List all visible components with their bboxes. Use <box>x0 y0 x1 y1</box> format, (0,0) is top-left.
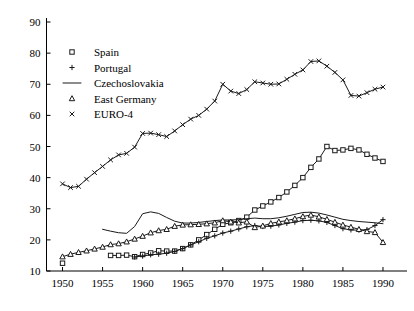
data-point-triangle <box>68 251 73 256</box>
data-point-triangle <box>324 217 329 222</box>
data-point-triangle <box>292 216 297 221</box>
data-point-triangle <box>84 248 89 253</box>
x-tick-label: 1970 <box>212 277 235 289</box>
series-portugal <box>132 217 386 260</box>
data-point-triangle <box>372 230 377 235</box>
data-point-triangle <box>316 214 321 219</box>
legend-swatch-triangle <box>69 96 74 101</box>
data-point-cross <box>204 107 209 112</box>
data-point-triangle <box>116 241 121 246</box>
series-path <box>111 147 383 257</box>
data-point-triangle <box>60 254 65 259</box>
legend-item-spain[interactable]: Spain <box>70 46 120 58</box>
data-point-triangle <box>284 218 289 223</box>
y-axis: 102030405060708090 <box>30 16 51 277</box>
data-point-plus <box>244 224 249 229</box>
data-point-square <box>285 190 289 194</box>
data-point-plus <box>220 230 225 235</box>
data-point-triangle <box>276 219 281 224</box>
data-point-triangle <box>164 226 169 231</box>
data-point-square <box>317 157 321 161</box>
data-point-triangle <box>300 214 305 219</box>
legend-swatch-plus <box>69 65 74 70</box>
data-point-square <box>373 156 377 160</box>
data-point-plus <box>212 233 217 238</box>
data-point-triangle <box>172 223 177 228</box>
data-point-cross <box>333 70 338 75</box>
legend-label: Spain <box>94 46 120 58</box>
line-chart: 102030405060708090 195019551960196519701… <box>0 0 414 311</box>
legend-label: East Germany <box>94 93 157 105</box>
data-point-triangle <box>148 230 153 235</box>
chart-legend: SpainPortugalCzechoslovakiaEast GermanyE… <box>63 46 164 120</box>
x-tick-label: 1960 <box>132 277 155 289</box>
y-tick-label: 40 <box>30 172 42 184</box>
legend-label: Czechoslovakia <box>94 77 164 89</box>
data-point-square <box>293 183 297 187</box>
data-point-square <box>116 253 120 257</box>
data-point-cross <box>285 77 290 82</box>
y-tick-label: 90 <box>30 16 42 28</box>
y-tick-label: 10 <box>30 265 42 277</box>
data-point-cross <box>212 99 217 104</box>
data-point-cross <box>196 113 201 118</box>
legend-swatch-square <box>70 50 74 54</box>
data-point-triangle <box>124 239 129 244</box>
data-point-cross <box>172 129 177 134</box>
data-point-triangle <box>260 223 265 228</box>
x-tick-label: 1965 <box>172 277 195 289</box>
data-point-cross <box>60 182 65 187</box>
x-tick-label: 1950 <box>52 277 75 289</box>
legend-item-czechoslovakia[interactable]: Czechoslovakia <box>63 77 164 89</box>
data-point-square <box>108 253 112 257</box>
data-point-cross <box>84 177 89 182</box>
legend-item-euro-4[interactable]: EURO-4 <box>70 108 134 120</box>
data-point-cross <box>293 72 298 77</box>
legend-swatch-cross <box>70 112 75 117</box>
data-point-cross <box>92 170 97 175</box>
x-tick-label: 1985 <box>332 277 355 289</box>
data-point-square <box>253 208 257 212</box>
data-point-triangle <box>156 228 161 233</box>
data-point-square <box>357 148 361 152</box>
y-tick-group: 102030405060708090 <box>30 16 51 277</box>
data-point-square <box>325 144 329 148</box>
chart-container: 102030405060708090 195019551960196519701… <box>0 0 414 311</box>
x-axis: 195019551960196519701975198019851990 <box>47 267 408 289</box>
data-point-triangle <box>356 226 361 231</box>
data-point-square <box>349 146 353 150</box>
data-point-cross <box>325 64 330 69</box>
data-point-cross <box>365 90 370 95</box>
data-point-triangle <box>220 218 225 223</box>
data-point-triangle <box>100 244 105 249</box>
series-spain <box>60 144 385 265</box>
data-point-square <box>301 175 305 179</box>
data-point-square <box>341 148 345 152</box>
data-point-cross <box>180 122 185 127</box>
data-point-square <box>213 227 217 231</box>
data-point-triangle <box>108 242 113 247</box>
data-point-triangle <box>268 221 273 226</box>
data-point-triangle <box>340 222 345 227</box>
data-point-triangle <box>332 219 337 224</box>
data-point-triangle <box>348 224 353 229</box>
x-tick-label: 1990 <box>372 277 395 289</box>
data-point-square <box>261 204 265 208</box>
plot-area <box>60 59 386 266</box>
y-tick-label: 60 <box>30 109 42 121</box>
data-point-plus <box>308 218 313 223</box>
x-tick-label: 1975 <box>252 277 275 289</box>
data-point-plus <box>236 226 241 231</box>
data-point-square <box>365 152 369 156</box>
data-point-square <box>124 253 128 257</box>
data-point-cross <box>220 82 225 87</box>
x-tick-group: 195019551960196519701975198019851990 <box>52 267 395 289</box>
data-point-triangle <box>308 212 313 217</box>
data-point-plus <box>228 229 233 234</box>
data-point-cross <box>108 158 113 163</box>
y-tick-label: 70 <box>30 78 42 90</box>
legend-item-east-germany[interactable]: East Germany <box>69 93 157 105</box>
y-tick-label: 20 <box>30 234 42 246</box>
legend-item-portugal[interactable]: Portugal <box>69 62 131 74</box>
data-point-cross <box>100 164 105 169</box>
